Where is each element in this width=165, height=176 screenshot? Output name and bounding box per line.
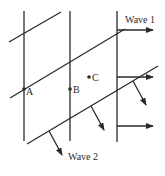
wave2-label: Wave 2	[68, 151, 98, 162]
point-c-label: C	[92, 72, 99, 83]
wave1-label: Wave 1	[125, 14, 155, 25]
point-c-marker	[87, 75, 91, 79]
wave2-arrow-middle	[91, 106, 104, 130]
wave2-arrow-right	[133, 81, 146, 105]
point-b-label: B	[73, 84, 80, 95]
wave-diagram: Wave 1 Wave 2 A B C	[0, 0, 165, 176]
wave2-front-top	[9, 12, 61, 42]
point-b-marker	[68, 87, 72, 91]
wave2-arrow-left	[49, 131, 62, 155]
point-a-label: A	[26, 86, 34, 97]
